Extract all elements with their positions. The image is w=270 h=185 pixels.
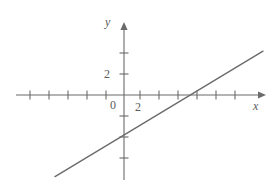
x-axis-group [16,91,266,100]
graph-figure: y x 0 2 2 [0,0,270,185]
x-tick-label-2: 2 [135,101,141,113]
x-axis-label: x [253,100,258,112]
origin-tick-label: 0 [110,99,116,111]
y-axis-label: y [105,16,110,28]
y-tick-label-2: 2 [104,68,110,80]
y-axis-arrowhead [120,22,127,30]
x-axis-arrowhead [258,91,266,98]
coordinate-plane-svg [0,0,270,185]
y-axis-group [120,22,129,180]
plotted-line [55,51,263,176]
